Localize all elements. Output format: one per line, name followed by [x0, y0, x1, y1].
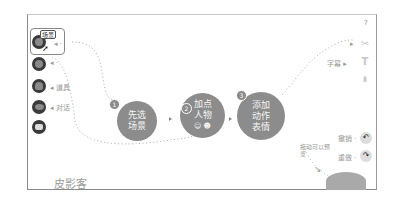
tools-icon[interactable]: ✂ [360, 38, 370, 49]
preview-hint: 拖动可以预览 [300, 143, 334, 157]
arrow-icon [229, 117, 232, 121]
caption-tool-button[interactable] [32, 120, 46, 134]
prop-tool-button[interactable] [32, 79, 46, 93]
hint-arrow: ▸ [350, 40, 354, 48]
character-tool-button[interactable] [32, 57, 46, 71]
step-3-line2: 动作 [252, 111, 270, 122]
dialog-hint: ◂ 对话 [50, 102, 70, 112]
redo-icon: ↷ [363, 152, 370, 160]
undo-hint: 撤销 · [338, 133, 356, 143]
undo-icon: ↶ [363, 134, 370, 142]
step-1-line2: 场景 [128, 121, 146, 132]
undo-button[interactable]: ↶ [360, 132, 372, 144]
preview-button[interactable] [326, 172, 366, 190]
help-icon[interactable]: ? [364, 19, 368, 27]
prop-hint: ◂ 道具 [50, 82, 70, 92]
step-3-line1: 添加 [252, 100, 270, 111]
redo-hint: 重做 · [338, 152, 356, 162]
step-1-circle: 先选 场景 [117, 101, 157, 141]
arrow-icon [169, 117, 172, 121]
cursor-icon: ➚ [42, 44, 49, 53]
audio-icon[interactable]: ▮ [360, 75, 370, 83]
step-2-line1: 加点 [194, 99, 212, 110]
step-3-number: 3 [236, 90, 247, 101]
step-1-number: 1 [109, 99, 120, 110]
dialog-tool-button[interactable] [32, 100, 46, 114]
hint-arrow: ◂ · [54, 40, 62, 48]
step-2-number: 2 [181, 103, 192, 114]
curved-arrow-icon: ↘ [314, 164, 322, 174]
step-3-line3: 表情 [252, 122, 270, 133]
redo-button[interactable]: ↷ [360, 150, 372, 162]
puppet-icons: ☺ ☻ [194, 121, 211, 132]
step-1-line1: 先选 [128, 110, 146, 121]
hint-arrow: ◂ · [50, 59, 58, 67]
brand-label: 皮影客 [54, 175, 87, 191]
step-2-line2: 人物 [194, 110, 212, 121]
scene-badge: 场景 [40, 30, 56, 39]
subtitle-hint: 字幕 ▸ [327, 58, 347, 68]
subtitle-icon[interactable]: T [360, 56, 370, 67]
step-2-circle: 加点 人物 ☺ ☻ [180, 93, 225, 138]
